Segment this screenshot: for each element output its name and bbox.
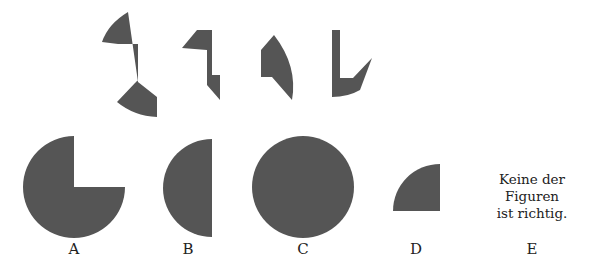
piece-4-shape [332,30,372,97]
option-a-label[interactable]: A [59,240,89,258]
option-e-label[interactable]: E [517,240,547,258]
option-e-text: Keine der Figuren ist richtig. [482,171,582,222]
option-d-label[interactable]: D [401,240,431,258]
puzzle-figures [0,0,594,272]
option-e-line-1: Keine der [482,171,582,188]
option-d-shape [393,164,440,211]
option-c-shape [252,136,354,238]
piece-1-shape [102,12,157,117]
puzzle-stage: A B C D Keine der Figuren ist richtig. E [0,0,594,272]
option-b-shape [163,139,212,237]
piece-2-shape [182,30,220,100]
option-e-line-2: Figuren [482,188,582,205]
option-b-label[interactable]: B [173,240,203,258]
option-c-label[interactable]: C [288,240,318,258]
option-a-shape [23,136,125,238]
option-e-line-3: ist richtig. [482,205,582,222]
piece-3-shape [261,35,293,100]
